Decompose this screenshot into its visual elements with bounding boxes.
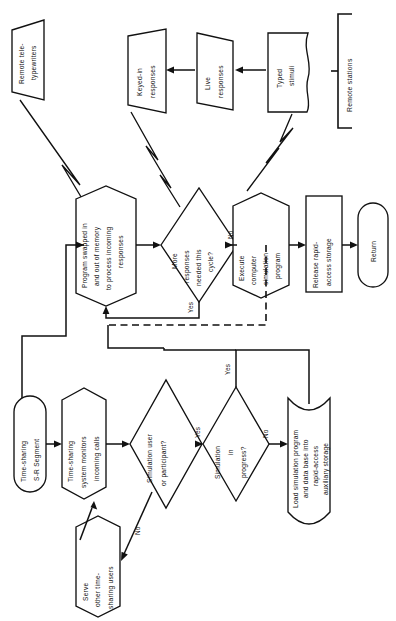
node-load-simulation-line1: Load simulation program: [292, 429, 300, 508]
link-bolt-keyed-responses: [131, 112, 180, 207]
node-simulation-in-progress: Simulation in progress?: [203, 387, 269, 501]
node-program-swapped-line2: and out of memory: [93, 226, 101, 286]
node-release-storage-line2: access storage: [325, 238, 333, 286]
node-release-storage: Release rapid- access storage: [306, 196, 342, 292]
annotation-remote-stations: Remote stations: [331, 14, 353, 128]
edge-label-more-responses-no: No: [227, 230, 234, 239]
edge-simuser-yes: Yes: [194, 427, 203, 448]
edge-execute-to-release: [289, 242, 306, 249]
edge-label-simprogress-no: No: [262, 429, 269, 438]
node-simulation-in-progress-line1: Simulation: [214, 446, 221, 479]
node-execute-simulation-line2: computer: [250, 255, 258, 285]
node-keyed-in-responses-line1: Keyed-in: [136, 68, 144, 96]
node-live-responses: Live responses: [197, 33, 233, 110]
edge-label-simuser-yes: Yes: [194, 427, 201, 438]
node-program-swapped-line1: Program swapped in: [81, 223, 89, 288]
node-serve-other-users-line3: sharing users: [107, 566, 115, 609]
edge-typed-to-live: [235, 67, 266, 74]
annotation-remote-stations-label: Remote stations: [346, 58, 353, 112]
node-remote-teletypewriters-line1: Remote tele-: [18, 43, 25, 84]
node-typed-stimuli-line2: stimuli: [288, 65, 295, 86]
node-typed-stimuli-line1: Typed: [276, 69, 284, 88]
node-keyed-in-responses-line2: responses: [149, 65, 157, 98]
edge-program-to-more-responses: [136, 242, 161, 249]
node-ts-segment-line2: S-R Segment: [33, 439, 41, 481]
node-load-simulation-line3: rapid-access: [312, 445, 320, 486]
node-ts-segment-line1: Time-sharing: [20, 441, 28, 482]
node-simulation-user: Simulation user or participant?: [130, 380, 202, 508]
node-release-storage-line1: Release rapid-: [312, 242, 320, 288]
node-remote-teletypewriters-line2: typewriters: [30, 45, 38, 80]
node-remote-teletypewriters: Remote tele- typewriters: [12, 20, 44, 100]
node-load-simulation-line2: and data base into: [302, 439, 309, 498]
node-ts-monitors: Time-sharing system monitors incoming ca…: [62, 388, 106, 499]
node-keyed-in-responses: Keyed-in responses: [128, 29, 166, 113]
node-serve-other-users-line2: other time-: [94, 573, 101, 607]
node-return: Return: [358, 203, 388, 287]
link-bolt-execute-to-stimuli: [247, 114, 293, 191]
node-more-responses-line3: needed this: [195, 249, 202, 286]
edge-label-simuser-no: No: [134, 526, 141, 535]
node-ts-segment: Time-sharing S-R Segment: [14, 396, 46, 492]
node-more-responses-line2: responses: [183, 250, 191, 283]
edge-top-rail-to-left: [164, 348, 236, 350]
node-program-swapped-line3: to process incoming: [105, 227, 113, 290]
node-ts-monitors-line1: Time-sharing: [67, 441, 75, 482]
node-live-responses-line1: Live: [204, 77, 211, 90]
node-simulation-user-line1: Simulation user: [146, 433, 153, 483]
edge-segment-to-monitors: [46, 441, 62, 448]
node-execute-simulation: Execute computer simulation program: [233, 193, 289, 298]
node-ts-monitors-line3: incoming calls: [93, 436, 101, 481]
edge-release-to-return: [342, 242, 358, 249]
edge-label-simprogress-yes: Yes: [224, 364, 231, 375]
edge-more-responses-yes: Yes: [103, 302, 199, 318]
edge-simuser-no: No: [121, 492, 152, 561]
edge-lower-feed-rail: [108, 325, 164, 348]
node-program-swapped-line4: responses: [117, 235, 125, 268]
edge-live-to-keyed: [166, 67, 195, 74]
edge-monitors-to-simuser: [106, 441, 130, 448]
node-simulation-user-line2: or participant?: [160, 440, 168, 486]
node-serve-other-users-line1: Serve: [82, 582, 89, 601]
node-simulation-in-progress-line2: in: [227, 449, 234, 455]
edge-left-return-rail: [22, 242, 84, 398]
node-return-label: Return: [370, 241, 377, 262]
node-ts-monitors-line2: system monitors: [80, 436, 88, 488]
node-live-responses-line2: responses: [217, 65, 225, 98]
edge-label-more-responses-yes: Yes: [187, 302, 194, 313]
node-load-simulation: Load simulation program and data base in…: [288, 398, 330, 524]
flowchart-canvas: Remote tele- typewriters Keyed-in respon…: [0, 0, 396, 621]
node-typed-stimuli: Typed stimuli: [268, 33, 309, 112]
node-execute-simulation-line1: Execute: [238, 255, 245, 281]
node-execute-simulation-line4: program: [274, 252, 282, 279]
node-simulation-in-progress-line3: progress?: [240, 446, 248, 478]
node-load-simulation-line4: auxiliary storage: [322, 443, 330, 495]
node-more-responses-line4: cycle?: [207, 252, 215, 272]
node-more-responses-line1: More: [171, 253, 178, 269]
node-program-swapped: Program swapped in and out of memory to …: [76, 186, 136, 306]
